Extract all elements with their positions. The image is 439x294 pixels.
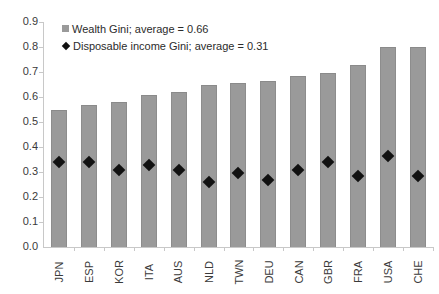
x-axis-tick-mark: [74, 247, 75, 251]
x-axis-category-text: NLD: [203, 261, 215, 283]
legend-item-wealth-gini: Wealth Gini; average = 0.66: [62, 20, 268, 37]
legend-item-disposable-income-gini: Disposable income Gini; average = 0.31: [62, 37, 268, 54]
y-axis-tick-label: 0.0: [0, 240, 38, 252]
x-axis-category-label: NLD: [194, 252, 224, 278]
y-axis-tick-mark: [39, 97, 43, 98]
plot-area: [44, 22, 433, 247]
x-axis-tick-mark: [373, 247, 374, 251]
x-axis-tick-mark: [104, 247, 105, 251]
chart-legend: Wealth Gini; average = 0.66 Disposable i…: [62, 20, 268, 54]
bar-wealth-gini: [51, 110, 67, 248]
x-axis-category-label: JPN: [44, 252, 74, 278]
bar-group: [164, 22, 194, 247]
x-axis-tick-mark: [253, 247, 254, 251]
y-axis-tick-mark: [39, 147, 43, 148]
x-axis-tick-mark: [134, 247, 135, 251]
x-axis-tick-mark: [403, 247, 404, 251]
legend-label-disposable-income-gini: Disposable income Gini; average = 0.31: [73, 40, 268, 52]
x-axis-tick-mark: [433, 247, 434, 251]
x-axis-category-label: ESP: [74, 252, 104, 278]
bar-wealth-gini: [81, 105, 97, 248]
bar-group: [104, 22, 134, 247]
bar-wealth-gini: [380, 47, 396, 247]
y-axis-tick-mark: [39, 72, 43, 73]
bar-group: [253, 22, 283, 247]
bar-group: [74, 22, 104, 247]
x-axis-category-text: ESP: [83, 261, 95, 283]
y-axis-tick-mark: [39, 222, 43, 223]
x-axis-category-label: GBR: [313, 252, 343, 278]
bar-group: [44, 22, 74, 247]
x-axis-category-label: CAN: [283, 252, 313, 278]
y-axis-tick-label: 0.5: [0, 115, 38, 127]
bar-wealth-gini: [290, 76, 306, 247]
bar-group: [134, 22, 164, 247]
x-axis-category-text: USA: [382, 261, 394, 284]
x-axis-category-label: DEU: [253, 252, 283, 278]
bar-group: [373, 22, 403, 247]
gini-comparison-chart: 0.90.80.70.60.50.40.30.20.10.0 JPNESPKOR…: [0, 0, 439, 294]
x-axis-category-text: CAN: [292, 260, 304, 283]
y-axis-tick-mark: [39, 22, 43, 23]
bar-group: [194, 22, 224, 247]
x-axis-tick-mark: [194, 247, 195, 251]
bar-group: [313, 22, 343, 247]
x-axis-tick-mark: [313, 247, 314, 251]
x-axis-category-label: TWN: [224, 252, 254, 278]
x-axis-category-text: ITA: [143, 264, 155, 280]
x-axis-category-text: TWN: [232, 259, 244, 284]
bar-group: [343, 22, 373, 247]
x-axis-category-label: CHE: [403, 252, 433, 278]
bar-group: [224, 22, 254, 247]
x-axis-category-label: FRA: [343, 252, 373, 278]
x-axis-category-text: JPN: [53, 262, 65, 283]
x-axis-category-text: AUS: [173, 261, 185, 284]
x-axis-tick-mark: [343, 247, 344, 251]
bar-group: [403, 22, 433, 247]
legend-label-wealth-gini: Wealth Gini; average = 0.66: [72, 23, 208, 35]
bar-wealth-gini: [410, 47, 426, 247]
bar-wealth-gini: [230, 83, 246, 247]
x-axis-category-text: KOR: [113, 260, 125, 284]
bar-wealth-gini: [201, 85, 217, 248]
y-axis-tick-mark: [39, 47, 43, 48]
x-axis-category-label: USA: [373, 252, 403, 278]
y-axis-tick-label: 0.7: [0, 65, 38, 77]
bar-wealth-gini: [350, 65, 366, 248]
y-axis-tick-mark: [39, 172, 43, 173]
x-axis-category-text: GBR: [322, 260, 334, 284]
y-axis-tick-label: 0.1: [0, 215, 38, 227]
x-axis-category-label: AUS: [164, 252, 194, 278]
y-axis-tick-label: 0.6: [0, 90, 38, 102]
x-axis-tick-mark: [283, 247, 284, 251]
x-axis-category-label: ITA: [134, 252, 164, 278]
y-axis-tick-mark: [39, 122, 43, 123]
bar-wealth-gini: [260, 81, 276, 247]
y-axis-tick-label: 0.3: [0, 165, 38, 177]
square-marker-icon: [62, 25, 69, 32]
x-axis-line: [43, 247, 433, 248]
y-axis-tick-label: 0.8: [0, 40, 38, 52]
x-axis-category-text: DEU: [262, 260, 274, 283]
y-axis-tick-label: 0.2: [0, 190, 38, 202]
bar-group: [283, 22, 313, 247]
x-axis-tick-mark: [224, 247, 225, 251]
y-axis-tick-mark: [39, 197, 43, 198]
x-axis-tick-mark: [164, 247, 165, 251]
x-axis-category-label: KOR: [104, 252, 134, 278]
x-axis-category-text: FRA: [352, 261, 364, 283]
diamond-marker-icon: [62, 41, 70, 49]
x-axis-category-text: CHE: [412, 260, 424, 283]
y-axis-tick-label: 0.9: [0, 15, 38, 27]
y-axis-tick-label: 0.4: [0, 140, 38, 152]
